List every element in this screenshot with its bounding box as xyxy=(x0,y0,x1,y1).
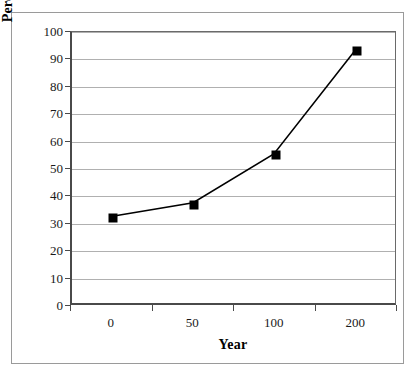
y-tick-label: 0 xyxy=(57,299,64,312)
y-tick-label: 10 xyxy=(50,271,63,284)
series-line xyxy=(112,51,354,216)
y-tick-label: 60 xyxy=(50,134,63,147)
y-tick-label: 70 xyxy=(50,107,63,120)
data-point-marker xyxy=(353,47,362,56)
plot-area xyxy=(70,31,396,305)
data-point-marker xyxy=(190,200,199,209)
x-axis-title: Year xyxy=(70,337,396,353)
data-point-marker xyxy=(271,151,280,160)
line-series xyxy=(72,32,395,303)
x-tick-mark xyxy=(70,305,71,311)
y-tick-label: 30 xyxy=(50,216,63,229)
y-tick-label: 50 xyxy=(50,162,63,175)
x-tick-label: 100 xyxy=(264,316,284,329)
x-tick-label: 0 xyxy=(108,316,115,329)
data-point-marker xyxy=(108,214,117,223)
y-tick-label: 20 xyxy=(50,244,63,257)
y-tick-label: 80 xyxy=(50,79,63,92)
x-tick-mark xyxy=(396,305,397,311)
y-axis-title: Percentage of Federal Lands xyxy=(0,0,20,71)
y-tick-label: 40 xyxy=(50,189,63,202)
x-tick-mark xyxy=(233,305,234,311)
x-tick-mark xyxy=(152,305,153,311)
x-tick-label: 50 xyxy=(186,316,199,329)
chart-figure: Percentage of Federal Lands 010203040506… xyxy=(0,0,418,377)
y-tick-label: 90 xyxy=(50,52,63,65)
y-tick-label: 100 xyxy=(44,25,64,38)
x-tick-label: 200 xyxy=(346,316,366,329)
x-tick-mark xyxy=(315,305,316,311)
